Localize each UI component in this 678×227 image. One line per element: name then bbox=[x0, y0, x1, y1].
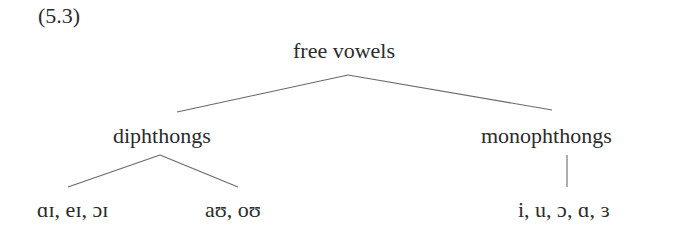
tree-branches bbox=[0, 0, 678, 227]
leaf-diphthongs-front: ɑɪ, eɪ, ɔɪ bbox=[37, 199, 108, 221]
branch-root-to-diphthongs bbox=[177, 75, 348, 112]
leaf-diphthongs-back: aʊ, oʊ bbox=[205, 199, 261, 221]
branch-root-to-monophthongs bbox=[348, 75, 552, 110]
branch-diphthongs-to-leaf-2 bbox=[160, 155, 238, 187]
node-free-vowels: free vowels bbox=[293, 40, 395, 62]
node-monophthongs: monophthongs bbox=[481, 125, 612, 147]
node-diphthongs: diphthongs bbox=[113, 125, 211, 147]
leaf-monophthongs: i, u, ɔ, ɑ, ɜ bbox=[518, 199, 610, 221]
branch-diphthongs-to-leaf-1 bbox=[68, 155, 160, 187]
